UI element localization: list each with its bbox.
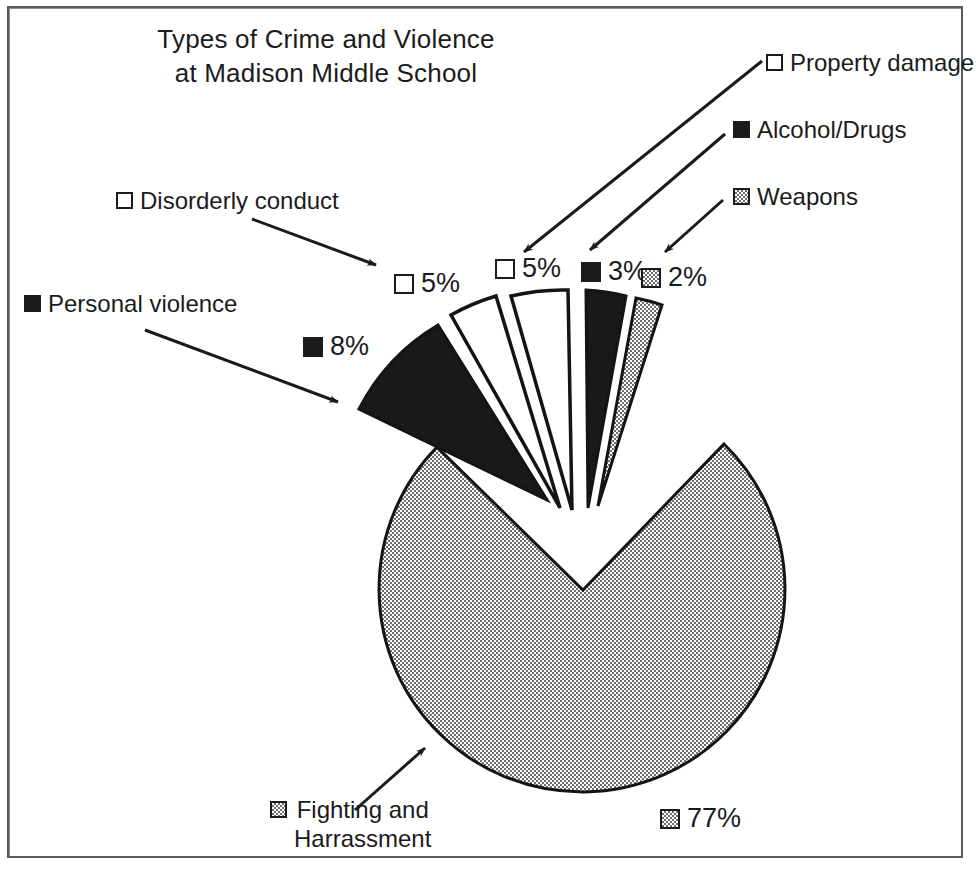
callout-label-personal-violence: Personal violence — [48, 289, 237, 318]
callout-label-disorderly-conduct: Disorderly conduct — [140, 186, 339, 215]
pct-swatch-disorderly-conduct — [394, 274, 414, 294]
pie-slice-fighting-harrassment — [379, 444, 785, 792]
callout-label-property-damage: Property damage — [790, 48, 974, 77]
pct-value-property-damage: 5% — [522, 253, 561, 284]
arrow-disorderly-conduct — [252, 219, 376, 265]
callout-personal-violence: Personal violence — [24, 289, 237, 318]
legend-swatch-weapons — [733, 188, 750, 205]
pct-weapons: 2% — [641, 262, 707, 293]
callout-disorderly-conduct: Disorderly conduct — [116, 186, 339, 215]
legend-swatch-fighting-harrassment — [270, 801, 287, 818]
callout-fighting-harrassment: Fighting and Harrassment — [270, 795, 500, 853]
pct-fighting-harrassment: 77% — [660, 803, 741, 834]
pct-value-disorderly-conduct: 5% — [421, 268, 460, 299]
legend-swatch-property-damage — [766, 54, 783, 71]
legend-swatch-alcohol-drugs — [733, 121, 750, 138]
pct-swatch-alcohol-drugs — [581, 262, 601, 282]
pct-value-fighting-harrassment: 77% — [687, 803, 741, 834]
pct-swatch-property-damage — [495, 259, 515, 279]
pct-property-damage: 5% — [495, 253, 561, 284]
callout-label-alcohol-drugs: Alcohol/Drugs — [757, 115, 906, 144]
callout-property-damage: Property damage — [766, 48, 974, 77]
callout-label-fighting-harrassment: Fighting and Harrassment — [294, 795, 431, 853]
pct-disorderly-conduct: 5% — [394, 268, 460, 299]
legend-swatch-personal-violence — [24, 295, 41, 312]
pct-swatch-fighting-harrassment — [660, 809, 680, 829]
callout-alcohol-drugs: Alcohol/Drugs — [733, 115, 906, 144]
chart-page: Types of Crime and Violence at Madison M… — [0, 0, 976, 871]
arrow-alcohol-drugs — [590, 134, 725, 250]
pct-swatch-personal-violence — [303, 337, 323, 357]
callout-label-weapons: Weapons — [757, 182, 858, 211]
pct-alcohol-drugs: 3% — [581, 256, 647, 287]
pct-personal-violence: 8% — [303, 331, 369, 362]
pct-swatch-weapons — [641, 268, 661, 288]
pct-value-personal-violence: 8% — [330, 331, 369, 362]
pct-value-weapons: 2% — [668, 262, 707, 293]
chart-title: Types of Crime and Violence at Madison M… — [86, 22, 566, 90]
arrow-weapons — [665, 200, 723, 252]
legend-swatch-disorderly-conduct — [116, 192, 133, 209]
callout-weapons: Weapons — [733, 182, 858, 211]
